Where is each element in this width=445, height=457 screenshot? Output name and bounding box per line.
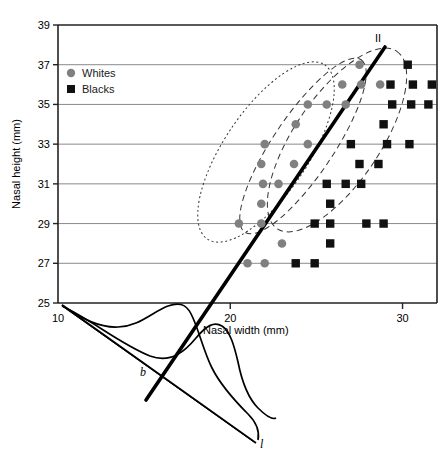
data-point-blacks bbox=[326, 219, 334, 227]
data-point-whites bbox=[257, 219, 266, 228]
y-tick-label: 29 bbox=[38, 218, 50, 230]
data-point-whites bbox=[257, 160, 266, 169]
data-point-blacks bbox=[357, 180, 365, 188]
data-point-whites bbox=[290, 160, 299, 169]
data-point-blacks bbox=[388, 100, 396, 108]
data-point-blacks bbox=[355, 160, 363, 168]
data-point-blacks bbox=[379, 219, 387, 227]
data-point-blacks bbox=[404, 61, 412, 69]
data-point-whites bbox=[278, 239, 287, 248]
y-tick-label: 39 bbox=[38, 19, 50, 31]
data-point-whites bbox=[291, 120, 300, 129]
data-point-blacks bbox=[326, 200, 334, 208]
figure-container: 2527293133353739 102030 II bbox=[0, 0, 445, 457]
data-point-blacks bbox=[409, 80, 417, 88]
x-tick-label: 20 bbox=[224, 312, 236, 324]
legend-marker-whites-icon bbox=[67, 69, 75, 77]
data-point-blacks bbox=[405, 140, 413, 148]
legend-label-whites: Whites bbox=[82, 67, 116, 79]
data-point-whites bbox=[322, 100, 331, 109]
x-tick-label: 30 bbox=[396, 312, 408, 324]
annotation-line-II: II bbox=[375, 32, 381, 44]
y-tick-label: 31 bbox=[38, 178, 50, 190]
data-point-blacks bbox=[341, 180, 349, 188]
data-point-blacks bbox=[379, 120, 387, 128]
data-point-blacks bbox=[428, 80, 436, 88]
data-point-whites bbox=[235, 219, 244, 228]
legend-label-blacks: Blacks bbox=[82, 83, 115, 95]
data-point-whites bbox=[243, 259, 252, 268]
data-point-blacks bbox=[310, 219, 318, 227]
data-point-whites bbox=[341, 100, 350, 109]
y-tick-label: 25 bbox=[38, 297, 50, 309]
data-point-whites bbox=[357, 80, 366, 89]
data-point-blacks bbox=[374, 160, 382, 168]
data-point-blacks bbox=[424, 100, 432, 108]
data-point-whites bbox=[355, 60, 364, 69]
data-point-whites bbox=[303, 100, 312, 109]
data-point-whites bbox=[303, 140, 312, 149]
y-tick-label: 37 bbox=[38, 59, 50, 71]
annotation-label-b: b bbox=[140, 365, 146, 379]
data-point-blacks bbox=[326, 239, 334, 247]
scatter-plot-svg: 2527293133353739 102030 II bbox=[0, 0, 445, 457]
data-point-blacks bbox=[347, 140, 355, 148]
x-tick-label: 10 bbox=[52, 312, 64, 324]
y-tick-label: 27 bbox=[38, 257, 50, 269]
data-point-blacks bbox=[323, 180, 331, 188]
data-point-blacks bbox=[383, 140, 391, 148]
plot-background bbox=[0, 0, 445, 457]
data-point-whites bbox=[260, 259, 269, 268]
data-point-whites bbox=[376, 80, 385, 89]
data-point-whites bbox=[257, 199, 266, 208]
data-point-blacks bbox=[310, 259, 318, 267]
data-point-blacks bbox=[407, 100, 415, 108]
data-point-blacks bbox=[292, 259, 300, 267]
data-point-whites bbox=[338, 80, 347, 89]
data-point-blacks bbox=[362, 219, 370, 227]
data-point-blacks bbox=[386, 80, 394, 88]
data-point-whites bbox=[260, 140, 269, 149]
y-tick-label: 35 bbox=[38, 98, 50, 110]
y-axis-title: Nasal height (mm) bbox=[10, 119, 22, 209]
y-tick-label: 33 bbox=[38, 138, 50, 150]
data-point-whites bbox=[274, 180, 283, 189]
data-point-whites bbox=[259, 180, 268, 189]
legend-marker-blacks-icon bbox=[67, 85, 75, 93]
x-axis-title: Nasal width (mm) bbox=[203, 324, 289, 336]
